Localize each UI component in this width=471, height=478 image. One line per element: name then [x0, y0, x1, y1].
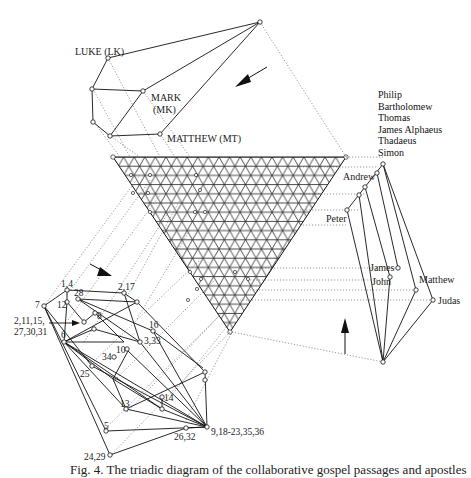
label-10: 10 — [116, 345, 126, 356]
apostle-thomas: Thomas — [378, 112, 442, 124]
label-2-17: 2,17 — [118, 282, 135, 293]
label-7: 7 — [35, 300, 40, 311]
figure-caption: Fig. 4. The triadic diagram of the colla… — [70, 462, 467, 478]
passages-lattice — [44, 290, 207, 455]
label-mark: MARK — [151, 92, 181, 103]
apostle-thadaeus: Thadaeus — [378, 135, 442, 147]
label-16: 16 — [149, 320, 159, 331]
label-peter: Peter — [326, 213, 347, 224]
arrow-icon-bottom-right — [341, 318, 349, 354]
label-5: 5 — [104, 421, 109, 432]
label-andrew: Andrew — [343, 171, 375, 182]
apostles-top-list: Philip Bartholomew Thomas James Alphaeus… — [378, 89, 442, 159]
central-triangle-lattice — [110, 155, 350, 335]
label-25: 25 — [80, 369, 90, 380]
gospels-lattice — [92, 22, 260, 136]
label-26-32: 26,32 — [174, 432, 195, 443]
label-3-33: 3,33 — [144, 336, 161, 347]
label-2-11-15: 2,11,15, — [14, 316, 45, 327]
apostle-bartholomew: Bartholomew — [378, 101, 442, 113]
apostle-james-alphaeus: James Alphaeus — [378, 124, 442, 136]
label-1-4: 1,4 — [61, 279, 73, 290]
label-34: 34 — [102, 352, 112, 363]
label-13: 13 — [120, 399, 130, 410]
label-matthew-gospel: MATTHEW (MT) — [167, 133, 241, 144]
label-mark-abbr: (MK) — [153, 104, 176, 115]
label-28: 28 — [74, 288, 84, 299]
label-9-18-23-35-36: 9,18-23,35,36 — [211, 427, 264, 438]
label-6: 6 — [61, 330, 66, 341]
label-27-30-31: 27,30,31 — [14, 327, 47, 338]
apostle-simon: Simon — [378, 147, 442, 159]
arrow-icon-left — [90, 264, 112, 276]
label-james: James — [370, 262, 394, 273]
label-luke: LUKE (LK) — [75, 46, 124, 57]
label-matthew-apostle: Matthew — [419, 274, 455, 285]
arrow-icon-top — [235, 67, 267, 87]
label-john: John — [372, 276, 391, 287]
apostle-philip: Philip — [378, 89, 442, 101]
label-8: 8 — [97, 311, 102, 322]
label-judas: Judas — [438, 295, 460, 306]
label-12: 12 — [57, 300, 67, 311]
label-14: 14 — [164, 393, 174, 404]
